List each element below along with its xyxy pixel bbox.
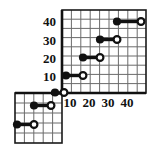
open-point-2 <box>48 102 55 109</box>
y-tick-label-40: 40 <box>26 15 56 28</box>
open-point-5 <box>97 54 104 61</box>
open-point-7 <box>138 18 145 25</box>
y-tick-label-30: 30 <box>26 34 56 47</box>
open-point-1 <box>31 121 38 128</box>
open-point-6 <box>114 36 121 43</box>
open-point-4 <box>80 72 87 79</box>
closed-point-7 <box>113 17 121 25</box>
closed-point-6 <box>96 35 104 43</box>
x-tick-label-40: 40 <box>114 96 140 109</box>
figure-container: 40 30 20 10 10 20 30 40 <box>0 0 150 148</box>
lower-left-grid <box>15 93 62 143</box>
closed-point-1 <box>13 120 21 128</box>
closed-point-4 <box>62 71 70 79</box>
step-function-chart <box>0 0 150 148</box>
closed-point-2 <box>30 101 38 109</box>
y-tick-label-10: 10 <box>26 70 56 83</box>
y-tick-label-20: 20 <box>26 52 56 65</box>
closed-point-5 <box>79 53 87 61</box>
